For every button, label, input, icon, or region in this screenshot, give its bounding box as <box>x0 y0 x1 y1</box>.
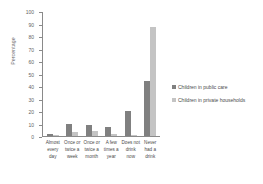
y-tick-label: 80 <box>28 35 34 40</box>
legend-item[interactable]: Children in public care <box>172 84 245 90</box>
bar-group <box>47 12 59 136</box>
bar-group <box>144 12 156 136</box>
legend-label: Children in private households <box>178 97 245 103</box>
chart-legend: Children in public careChildren in priva… <box>172 84 245 103</box>
y-tick: 70 <box>39 50 42 51</box>
x-axis-line <box>42 136 160 137</box>
y-tick: 60 <box>39 62 42 63</box>
bar-group <box>105 12 117 136</box>
y-tick-label: 10 <box>28 122 34 127</box>
y-tick-label: 90 <box>28 22 34 27</box>
bar <box>131 135 137 136</box>
y-tick-label: 100 <box>26 10 34 15</box>
x-axis-label: Once or twice a month <box>82 140 101 161</box>
y-tick: 30 <box>39 100 42 101</box>
y-tick-label: 30 <box>28 97 34 102</box>
bar-groups <box>43 12 160 136</box>
bar-group <box>86 12 98 136</box>
x-axis-label: Once or twice a week <box>63 140 82 161</box>
y-tick-label: 40 <box>28 85 34 90</box>
y-tick: 90 <box>39 25 42 26</box>
y-tick: 40 <box>39 87 42 88</box>
y-tick-label: 70 <box>28 47 34 52</box>
x-axis-label: Does not drink now <box>121 140 140 161</box>
bar <box>125 111 131 136</box>
y-tick: 0 <box>39 137 42 138</box>
bar-group <box>125 12 137 136</box>
bar <box>72 132 78 136</box>
y-tick-label: 0 <box>31 135 34 140</box>
bar <box>150 27 156 136</box>
bar <box>92 131 98 136</box>
y-tick: 10 <box>39 125 42 126</box>
x-axis-labels: Almost every dayOnce or twice a weekOnce… <box>43 140 160 161</box>
y-tick: 20 <box>39 112 42 113</box>
y-tick: 80 <box>39 37 42 38</box>
y-tick-label: 50 <box>28 72 34 77</box>
y-tick: 100 <box>39 12 42 13</box>
bar <box>111 134 117 137</box>
legend-swatch-icon <box>172 98 176 102</box>
bar <box>53 135 59 136</box>
y-axis-title: Percentage <box>10 16 16 86</box>
bar-group <box>66 12 78 136</box>
legend-label: Children in public care <box>178 84 227 90</box>
y-tick: 50 <box>39 75 42 76</box>
x-axis-label: Almost every day <box>43 140 62 161</box>
legend-swatch-icon <box>172 85 176 89</box>
x-axis-label: A few times a year <box>102 140 121 161</box>
x-axis-label: Never had a drink <box>141 140 160 161</box>
legend-item[interactable]: Children in private households <box>172 97 245 103</box>
y-tick-label: 60 <box>28 60 34 65</box>
plot-area: 0102030405060708090100 <box>42 12 160 137</box>
y-tick-label: 20 <box>28 110 34 115</box>
bar-chart: Percentage 0102030405060708090100 Almost… <box>0 0 263 184</box>
